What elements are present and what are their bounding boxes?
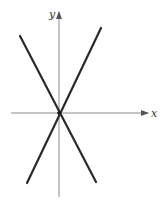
line-negative-slope bbox=[20, 36, 96, 182]
x-axis-label: x bbox=[151, 107, 158, 120]
line-positive-slope bbox=[27, 28, 101, 183]
y-axis-label: y bbox=[48, 8, 56, 21]
figure-canvas: x y bbox=[0, 0, 165, 203]
origin-point bbox=[57, 111, 61, 115]
